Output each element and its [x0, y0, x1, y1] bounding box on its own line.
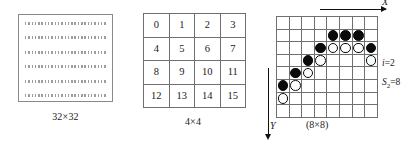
board-cell: [340, 93, 352, 105]
board-cell: [365, 42, 377, 54]
x-axis-arrow-icon: [320, 9, 386, 10]
board-cell: [353, 42, 365, 54]
board-cell: [327, 93, 339, 105]
board-cell: [290, 42, 302, 54]
board-cell: [290, 55, 302, 67]
dot-row: [25, 36, 106, 39]
dotted-grid-caption: 32×32: [18, 111, 113, 122]
board-cell: [340, 80, 352, 92]
numbered-cell: 14: [195, 85, 220, 108]
board-cell: [302, 30, 314, 42]
white-stone: [303, 68, 314, 79]
board-cell: [290, 105, 302, 117]
annotation-sum-value: =8: [390, 77, 400, 87]
panel-numbered-grid: 0123456789101112131415 4×4: [143, 13, 246, 127]
board-cell: [302, 55, 314, 67]
numbered-cell: 0: [144, 14, 169, 37]
board-cell: [353, 80, 365, 92]
board-cell: [327, 55, 339, 67]
board-cell: [327, 67, 339, 79]
stone-board-grid: [276, 16, 378, 118]
numbered-cell: 12: [144, 85, 169, 108]
board-cell: [315, 105, 327, 117]
board-cell: [353, 55, 365, 67]
board-cell: [277, 80, 289, 92]
board-wrapper: X Y (8×8) i=2 S2=8: [276, 16, 378, 118]
board-cell: [290, 17, 302, 29]
numbered-cell: 2: [195, 14, 220, 37]
panel-stone-board: X Y (8×8) i=2 S2=8: [276, 16, 378, 118]
board-cell: [315, 93, 327, 105]
board-cell: [277, 105, 289, 117]
annotation-index: i=2: [382, 58, 395, 68]
board-cell: [315, 17, 327, 29]
board-cell: [327, 42, 339, 54]
annotation-index-value: =2: [385, 58, 395, 68]
dot-row: [25, 80, 106, 83]
board-cell: [290, 80, 302, 92]
numbered-grid-caption: 4×4: [143, 116, 243, 127]
dot-row: [25, 22, 106, 25]
board-cell: [302, 80, 314, 92]
dot-row: [25, 94, 106, 97]
numbered-cell: 8: [144, 61, 169, 84]
board-cell: [315, 30, 327, 42]
board-cell: [290, 67, 302, 79]
numbered-cell: 4: [144, 38, 169, 61]
stone-board-caption: (8×8): [306, 119, 328, 130]
board-cell: [365, 93, 377, 105]
board-cell: [315, 42, 327, 54]
board-cell: [340, 55, 352, 67]
board-cell: [315, 67, 327, 79]
numbered-cell: 7: [221, 38, 246, 61]
numbered-grid: 0123456789101112131415: [143, 13, 246, 108]
board-cell: [277, 67, 289, 79]
board-cell: [327, 30, 339, 42]
black-stone: [366, 43, 377, 54]
board-cell: [302, 42, 314, 54]
board-cell: [340, 17, 352, 29]
board-cell: [365, 17, 377, 29]
board-cell: [340, 105, 352, 117]
board-cell: [277, 93, 289, 105]
board-cell: [302, 105, 314, 117]
black-stone: [328, 30, 339, 41]
board-cell: [327, 17, 339, 29]
board-cell: [365, 67, 377, 79]
black-stone: [340, 30, 351, 41]
numbered-cell: 3: [221, 14, 246, 37]
board-cell: [315, 80, 327, 92]
white-stone: [366, 55, 377, 66]
board-cell: [302, 93, 314, 105]
numbered-cell: 13: [170, 85, 195, 108]
dot-row: [25, 65, 106, 68]
numbered-cell: 10: [195, 61, 220, 84]
dot-row: [25, 51, 106, 54]
white-stone: [290, 80, 301, 91]
black-stone: [278, 80, 289, 91]
board-cell: [340, 30, 352, 42]
board-cell: [365, 30, 377, 42]
board-cell: [340, 67, 352, 79]
black-stone: [315, 43, 326, 54]
x-axis-label: X: [382, 0, 388, 7]
board-cell: [365, 55, 377, 67]
white-stone: [340, 43, 351, 54]
board-cell: [353, 30, 365, 42]
board-cell: [290, 30, 302, 42]
board-cell: [353, 17, 365, 29]
board-cell: [277, 30, 289, 42]
board-cell: [327, 105, 339, 117]
board-cell: [277, 17, 289, 29]
board-cell: [327, 80, 339, 92]
white-stone: [353, 43, 364, 54]
black-stone: [290, 68, 301, 79]
board-cell: [353, 93, 365, 105]
panel-dotted-grid: 32×32: [18, 14, 113, 122]
numbered-cell: 9: [170, 61, 195, 84]
board-cell: [365, 80, 377, 92]
dotted-grid-box: [18, 14, 113, 102]
black-stone: [353, 30, 364, 41]
annotation-sum: S2=8: [382, 77, 400, 90]
white-stone: [315, 55, 326, 66]
